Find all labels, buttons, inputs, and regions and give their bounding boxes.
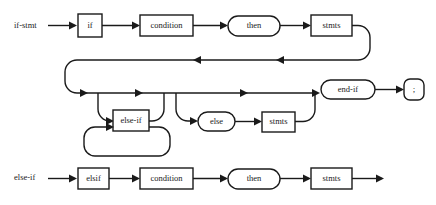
arrowhead-into-condition-1	[132, 22, 140, 30]
arrowhead-into-stmts-1	[303, 22, 311, 30]
arrowhead-branch-mid-1	[135, 89, 143, 97]
arrowhead-into-stmts-3	[303, 175, 311, 183]
node-if-label: if	[87, 20, 92, 30]
arrowhead-branch-mid-2	[240, 89, 248, 97]
node-then-2-label: then	[247, 173, 262, 183]
node-else-label: else	[210, 116, 223, 126]
track-fork-down-to-else	[176, 93, 196, 121]
arrowhead-exit-else-if	[376, 175, 384, 183]
rule-if-stmt: if-stmt if condition then st	[14, 14, 370, 97]
node-condition-1-label: condition	[150, 20, 183, 30]
node-stmts-3-label: stmts	[323, 173, 341, 183]
arrowhead-into-then-2	[220, 175, 228, 183]
arrowhead-return-left-1	[276, 56, 284, 64]
arrowhead-into-semicolon	[396, 86, 404, 94]
rule-label-if-stmt: if-stmt	[14, 20, 37, 30]
arrowhead-into-if	[69, 22, 77, 30]
track-else-rejoin-up	[295, 93, 315, 122]
arrowhead-into-then-1	[220, 22, 228, 30]
arrowhead-into-condition-2	[132, 175, 140, 183]
node-condition-2-label: condition	[150, 173, 183, 183]
arrowhead-return-left-2	[193, 56, 201, 64]
node-else-if-label: else-if	[120, 115, 141, 125]
track-row2-wrap-left	[65, 60, 86, 93]
node-then-1-label: then	[247, 20, 262, 30]
if-stmt-branch-group: else-if else stmts end-if	[84, 79, 424, 156]
rule-else-if: else-if elsif condition then	[14, 168, 384, 189]
node-stmts-2-label: stmts	[270, 116, 288, 126]
node-stmts-1-label: stmts	[323, 20, 341, 30]
node-elsif-label: elsif	[86, 173, 101, 183]
track-fork-down-to-else-if	[98, 93, 112, 121]
arrowhead-into-end-if	[312, 89, 320, 97]
arrowhead-into-stmts-2	[254, 118, 262, 126]
arrowhead-into-elsif	[69, 175, 77, 183]
arrowhead-into-else	[190, 117, 198, 125]
railroad-diagram-canvas: if-stmt if condition then st	[0, 0, 436, 205]
railroad-diagram: if-stmt if condition then st	[0, 0, 436, 205]
rule-label-else-if: else-if	[14, 172, 35, 182]
track-else-if-rejoin-up	[149, 93, 164, 121]
node-end-if-label: end-if	[338, 84, 358, 94]
node-semicolon-label: ;	[413, 84, 416, 94]
